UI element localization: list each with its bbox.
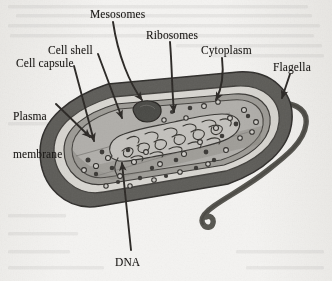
label-cytoplasm: Cytoplasm [201,44,252,57]
label-mesosomes: Mesosomes [90,8,145,21]
label-plasma-membrane-line1: Plasma [13,110,62,123]
label-dna: DNA [115,256,140,269]
label-plasma-membrane-line2: membrane [13,148,62,161]
cell-body [40,72,292,207]
mesosome [133,101,161,122]
label-flagella: Flagella [273,61,311,74]
label-cell-capsule: Cell capsule [16,57,74,70]
label-cell-shell: Cell shell [48,44,93,57]
label-ribosomes: Ribosomes [146,29,198,42]
label-plasma-membrane: Plasma membrane [13,85,62,173]
